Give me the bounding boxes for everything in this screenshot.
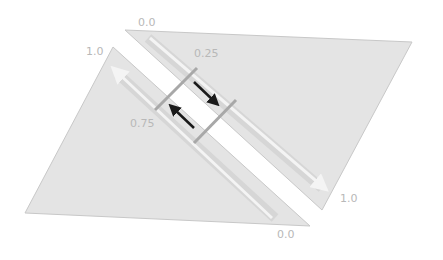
label-bottom-end: 0.0 xyxy=(277,228,295,241)
label-mark-bottom: 0.75 xyxy=(130,117,155,130)
diagram-canvas xyxy=(0,0,443,260)
label-bottom-start: 1.0 xyxy=(86,45,104,58)
label-mark-top: 0.25 xyxy=(194,47,219,60)
label-top-start: 0.0 xyxy=(138,16,156,29)
label-top-end: 1.0 xyxy=(340,192,358,205)
